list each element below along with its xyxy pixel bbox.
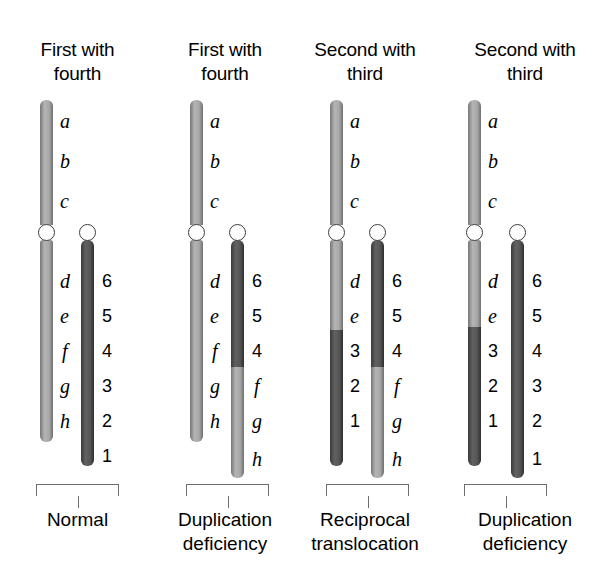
panel-bracket-stem: [78, 496, 79, 508]
band-label: e: [210, 307, 219, 325]
band-label: h: [392, 450, 402, 468]
panel-dup-def-1: First with fourthDuplication deficiencya…: [155, 0, 295, 574]
band-label: h: [210, 412, 220, 430]
band-label: a: [350, 112, 360, 130]
band-label: b: [488, 152, 498, 170]
band-label: 4: [392, 342, 402, 360]
band-label: 5: [102, 307, 112, 325]
band-label: d: [210, 272, 220, 290]
chromatid-segment: [371, 240, 384, 367]
band-label: 6: [532, 272, 542, 290]
band-label: 3: [488, 342, 498, 360]
band-label: 1: [488, 412, 498, 430]
band-label: g: [210, 377, 220, 395]
band-label: f: [394, 377, 400, 395]
chromatid-segment: [330, 100, 343, 225]
chromatid-segment: [231, 240, 244, 367]
band-label: a: [488, 112, 498, 130]
chromatid-segment: [190, 100, 203, 225]
band-label: 5: [252, 307, 262, 325]
band-label: e: [60, 307, 69, 325]
panel-heading: First with fourth: [155, 38, 295, 86]
centromere-icon: [38, 224, 55, 241]
panel-bracket: [36, 484, 119, 496]
band-label: 6: [102, 272, 112, 290]
chromatid-segment: [81, 240, 94, 466]
band-label: h: [252, 450, 262, 468]
band-label: 3: [350, 342, 360, 360]
centromere-icon: [369, 224, 386, 241]
band-label: d: [350, 272, 360, 290]
panel-recip-trans: Second with thirdReciprocal translocatio…: [295, 0, 435, 574]
band-label: g: [60, 377, 70, 395]
panel-bracket: [186, 484, 269, 496]
chromatid-segment: [468, 327, 481, 466]
band-label: g: [252, 412, 262, 430]
panel-caption: Normal: [0, 508, 155, 532]
panel-bracket: [464, 484, 547, 496]
panel-heading: Second with third: [435, 38, 615, 86]
panel-caption: Reciprocal translocation: [295, 508, 435, 556]
chromatid-segment: [511, 240, 524, 478]
band-label: c: [60, 192, 69, 210]
band-label: 4: [532, 342, 542, 360]
chromatid-segment: [40, 240, 53, 442]
band-label: 5: [532, 307, 542, 325]
band-label: f: [212, 342, 218, 360]
panel-bracket: [326, 484, 409, 496]
band-label: b: [350, 152, 360, 170]
band-label: b: [60, 152, 70, 170]
band-label: c: [350, 192, 359, 210]
band-label: 4: [102, 342, 112, 360]
chromatid-segment: [468, 240, 481, 327]
band-label: c: [488, 192, 497, 210]
panel-dup-def-2: Second with thirdDuplication deficiencya…: [435, 0, 615, 574]
band-label: h: [60, 412, 70, 430]
panel-bracket-stem: [368, 496, 369, 508]
centromere-icon: [509, 224, 526, 241]
band-label: a: [60, 112, 70, 130]
band-label: 4: [252, 342, 262, 360]
centromere-icon: [229, 224, 246, 241]
centromere-icon: [188, 224, 205, 241]
panel-normal: First with fourthNormalabcdefgh654321: [0, 0, 155, 574]
band-label: e: [488, 307, 497, 325]
band-label: c: [210, 192, 219, 210]
band-label: g: [392, 412, 402, 430]
band-label: f: [62, 342, 68, 360]
chromosome-translocation-figure: First with fourthNormalabcdefgh654321Fir…: [0, 0, 615, 574]
band-label: 1: [102, 447, 112, 465]
band-label: 1: [532, 450, 542, 468]
band-label: 3: [532, 377, 542, 395]
band-label: d: [488, 272, 498, 290]
panel-heading: Second with third: [295, 38, 435, 86]
band-label: 5: [392, 307, 402, 325]
band-label: f: [254, 377, 260, 395]
band-label: 6: [392, 272, 402, 290]
band-label: 2: [488, 377, 498, 395]
panel-caption: Duplication deficiency: [155, 508, 295, 556]
band-label: 2: [532, 412, 542, 430]
chromatid-segment: [40, 100, 53, 225]
band-label: e: [350, 307, 359, 325]
band-label: 1: [350, 412, 360, 430]
band-label: d: [60, 272, 70, 290]
centromere-icon: [79, 224, 96, 241]
panel-bracket-stem: [228, 496, 229, 508]
panel-heading: First with fourth: [0, 38, 155, 86]
chromatid-segment: [330, 240, 343, 330]
centromere-icon: [466, 224, 483, 241]
panel-bracket-stem: [506, 496, 507, 508]
band-label: b: [210, 152, 220, 170]
panel-caption: Duplication deficiency: [435, 508, 615, 556]
band-label: 2: [350, 377, 360, 395]
centromere-icon: [328, 224, 345, 241]
band-label: 6: [252, 272, 262, 290]
chromatid-segment: [468, 100, 481, 225]
band-label: 2: [102, 412, 112, 430]
band-label: 3: [102, 377, 112, 395]
chromatid-segment: [371, 367, 384, 478]
chromatid-segment: [190, 240, 203, 442]
band-label: a: [210, 112, 220, 130]
chromatid-segment: [330, 330, 343, 466]
